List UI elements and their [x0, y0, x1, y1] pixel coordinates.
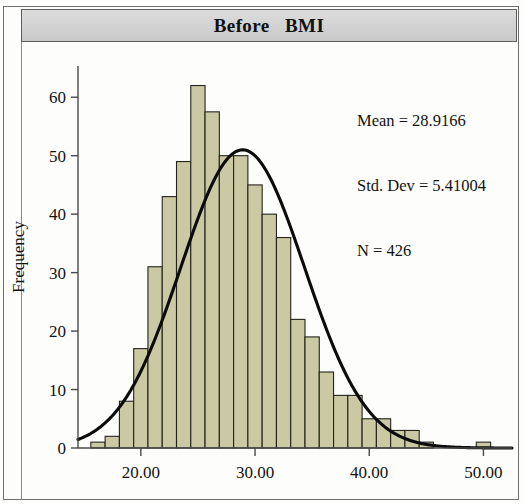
- histogram-bar: [276, 238, 290, 448]
- histogram-bar: [305, 337, 319, 448]
- histogram-bar: [319, 372, 333, 448]
- histogram-figure: Before BMI 0102030405060 20.0030.0040.00…: [0, 0, 523, 504]
- x-tick-label: 50.00: [464, 463, 502, 482]
- stats-annotation: Mean = 28.9166 Std. Dev = 5.41004 N = 42…: [357, 66, 486, 305]
- histogram-bar: [105, 436, 119, 448]
- y-tick-label: 40: [49, 205, 66, 224]
- y-tick-label: 50: [49, 147, 66, 166]
- histogram-bar: [291, 319, 305, 448]
- histogram-bar: [148, 267, 162, 448]
- histogram-bar: [248, 185, 262, 448]
- histogram-bar: [334, 395, 348, 448]
- histogram-bar: [91, 442, 105, 448]
- histogram-bar: [234, 156, 248, 448]
- histogram-bar: [119, 401, 133, 448]
- y-ticks-group: 0102030405060: [49, 88, 78, 458]
- x-tick-label: 20.00: [122, 463, 160, 482]
- y-tick-label: 30: [49, 264, 66, 283]
- y-axis-title: Frequency: [9, 221, 28, 293]
- histogram-bar: [362, 419, 376, 448]
- y-tick-label: 0: [58, 439, 67, 458]
- histogram-bar: [177, 162, 191, 448]
- page-title: Before BMI: [214, 15, 325, 37]
- histogram-bar: [191, 86, 205, 448]
- stats-n: N = 426: [357, 240, 486, 262]
- x-tick-label: 30.00: [236, 463, 274, 482]
- stats-mean: Mean = 28.9166: [357, 110, 486, 132]
- histogram-bar: [162, 197, 176, 448]
- y-tick-label: 10: [49, 381, 66, 400]
- histogram-bar: [219, 156, 233, 448]
- y-tick-label: 20: [49, 322, 66, 341]
- x-ticks-group: 20.0030.0040.0050.00: [122, 448, 503, 482]
- histogram-bar: [262, 214, 276, 448]
- histogram-bar: [205, 112, 219, 448]
- y-tick-label: 60: [49, 88, 66, 107]
- histogram-bar: [348, 395, 362, 448]
- chart-title-bar: Before BMI: [21, 9, 517, 42]
- stats-std-dev: Std. Dev = 5.41004: [357, 175, 486, 197]
- x-tick-label: 40.00: [350, 463, 388, 482]
